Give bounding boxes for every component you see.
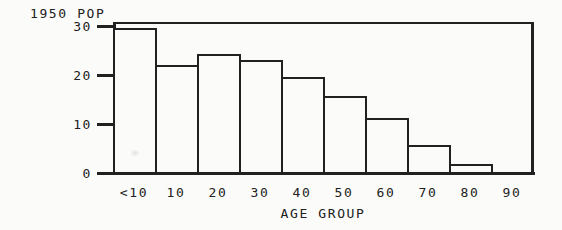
bar-60 <box>365 118 409 174</box>
bar-80 <box>449 164 493 174</box>
bar-10 <box>155 65 199 174</box>
population-histogram-chart: 1950 POP 3020100 <10102030405060708090 A… <box>0 0 562 230</box>
scan-speck-artifact <box>130 149 140 157</box>
y-tick-0 <box>97 172 114 175</box>
bar-40 <box>281 77 325 174</box>
x-tick-label-90: 90 <box>482 185 542 200</box>
y-tick-label-10: 10 <box>35 117 92 133</box>
bar-70 <box>407 145 451 174</box>
bar-30 <box>239 60 283 174</box>
plot-right-border <box>531 22 534 175</box>
y-tick-label-20: 20 <box>35 68 92 84</box>
y-tick-label-0: 0 <box>35 166 92 182</box>
y-tick-label-30: 30 <box>35 19 92 35</box>
bar-50 <box>323 96 367 174</box>
x-axis-title: AGE GROUP <box>243 206 403 222</box>
y-tick-30 <box>97 25 114 28</box>
y-tick-20 <box>97 74 114 77</box>
plot-top-border <box>113 22 534 24</box>
bar-20 <box>197 54 241 174</box>
y-tick-10 <box>97 123 114 126</box>
